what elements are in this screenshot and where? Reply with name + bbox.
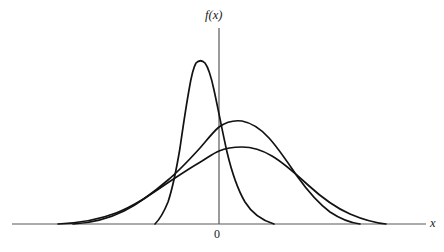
y-axis-label: f(x) bbox=[205, 9, 222, 22]
density-curve-broad-flat bbox=[58, 147, 386, 224]
density-curve-narrow-tall bbox=[155, 61, 274, 224]
plot-canvas bbox=[0, 0, 444, 252]
density-curve-medium bbox=[73, 121, 360, 224]
x-axis-label: x bbox=[430, 217, 436, 230]
origin-tick-label: 0 bbox=[214, 228, 220, 240]
density-curves-figure: f(x) x 0 bbox=[0, 0, 444, 252]
